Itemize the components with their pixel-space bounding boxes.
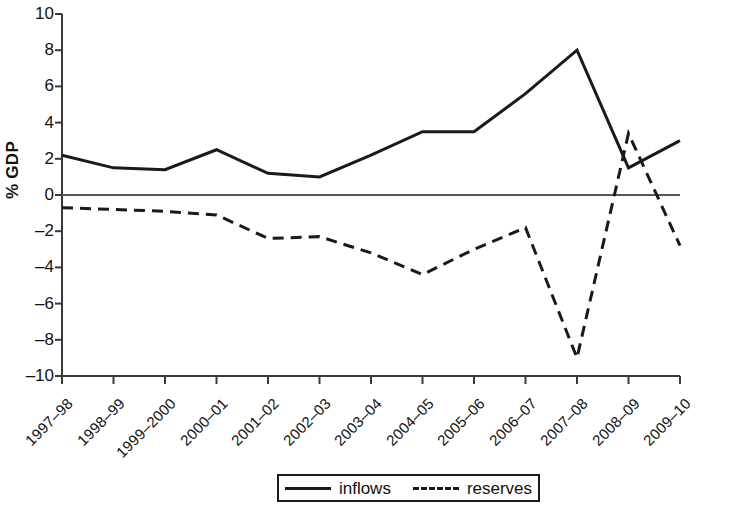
legend-item-reserves: reserves (413, 480, 532, 497)
x-axis-tick-labels: 1997–981998–991999–20002000–012001–02200… (0, 0, 740, 507)
legend-swatch-dashed-icon (413, 487, 459, 490)
legend-label-inflows: inflows (339, 480, 391, 497)
legend-label-reserves: reserves (467, 480, 532, 497)
legend-swatch-solid-icon (285, 487, 331, 490)
chart-legend: inflows reserves (277, 474, 540, 502)
legend-item-inflows: inflows (285, 480, 391, 497)
chart-figure: % GDP 1086420–2–4–6–8–10 1997–981998–991… (0, 0, 740, 507)
